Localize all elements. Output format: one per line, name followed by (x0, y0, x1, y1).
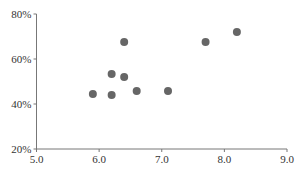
y-tick-label: 60% (11, 53, 31, 65)
data-point (202, 38, 210, 46)
data-point (164, 87, 172, 95)
x-tick-label: 5.0 (30, 153, 44, 165)
x-tick-label: 7.0 (155, 153, 169, 165)
data-point (89, 90, 97, 98)
data-point (233, 28, 241, 36)
y-tick-label: 20% (11, 143, 31, 155)
x-tick-label: 8.0 (218, 153, 232, 165)
data-points (89, 28, 241, 99)
x-axis: 5.06.07.08.09.0 (30, 149, 295, 165)
y-tick-label: 80% (11, 8, 31, 20)
data-point (133, 87, 141, 95)
y-tick-label: 40% (11, 98, 31, 110)
data-point (120, 73, 128, 81)
scatter-chart: 20%40%60%80% 5.06.07.08.09.0 (0, 0, 303, 176)
data-point (108, 70, 116, 78)
y-axis: 20%40%60%80% (11, 8, 36, 155)
data-point (108, 91, 116, 99)
x-tick-label: 6.0 (92, 153, 106, 165)
x-tick-label: 9.0 (280, 153, 294, 165)
data-point (120, 38, 128, 46)
